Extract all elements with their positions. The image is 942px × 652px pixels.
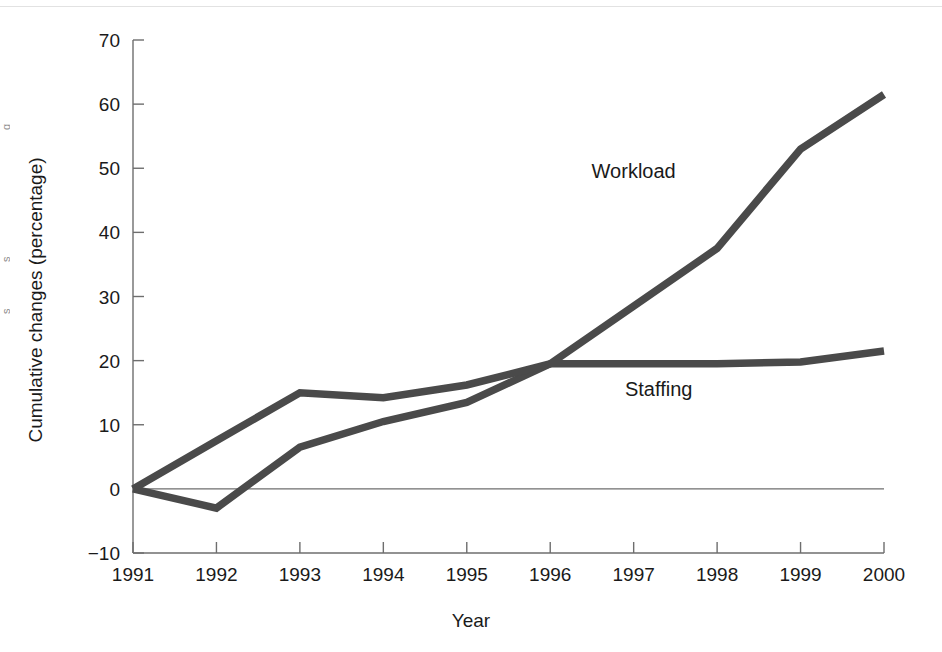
y-tick-label: 30 — [99, 287, 120, 308]
y-tick-label: −10 — [88, 543, 120, 564]
y-axis-tick-labels: −10010203040506070 — [88, 30, 120, 564]
edge-text-fragment-3: s — [1, 292, 10, 314]
x-axis-tick-marks — [133, 542, 884, 553]
x-tick-label: 1993 — [279, 564, 321, 585]
x-axis-title: Year — [452, 610, 491, 631]
x-tick-label: 1994 — [362, 564, 405, 585]
y-tick-label: 40 — [99, 222, 120, 243]
x-tick-label: 1995 — [446, 564, 488, 585]
chart-figure: g s s −10010203040506070 199119921993199… — [0, 0, 942, 652]
edge-text-fragment-1: g — [1, 96, 10, 130]
x-tick-label: 2000 — [863, 564, 905, 585]
page-top-rule — [0, 6, 942, 7]
y-tick-label: 60 — [99, 94, 120, 115]
series-label-workload: Workload — [592, 160, 676, 182]
line-chart: −10010203040506070 199119921993199419951… — [0, 0, 942, 652]
series-line-workload — [133, 95, 884, 509]
x-tick-label: 1996 — [529, 564, 571, 585]
y-tick-label: 50 — [99, 158, 120, 179]
x-tick-label: 1991 — [112, 564, 154, 585]
x-tick-label: 1999 — [779, 564, 821, 585]
data-series-group — [133, 95, 884, 509]
x-tick-label: 1997 — [613, 564, 655, 585]
y-tick-label: 0 — [109, 479, 120, 500]
x-axis-tick-labels: 1991199219931994199519961997199819992000 — [112, 564, 905, 585]
y-tick-label: 10 — [99, 415, 120, 436]
series-line-staffing — [133, 351, 884, 489]
edge-text-fragment-2: s — [1, 236, 10, 262]
y-axis-tick-marks — [133, 40, 144, 553]
y-tick-label: 70 — [99, 30, 120, 51]
x-tick-label: 1998 — [696, 564, 738, 585]
y-axis-title: Cumulative changes (percentage) — [25, 157, 46, 442]
y-tick-label: 20 — [99, 351, 120, 372]
series-label-staffing: Staffing — [625, 378, 692, 400]
x-tick-label: 1992 — [195, 564, 237, 585]
